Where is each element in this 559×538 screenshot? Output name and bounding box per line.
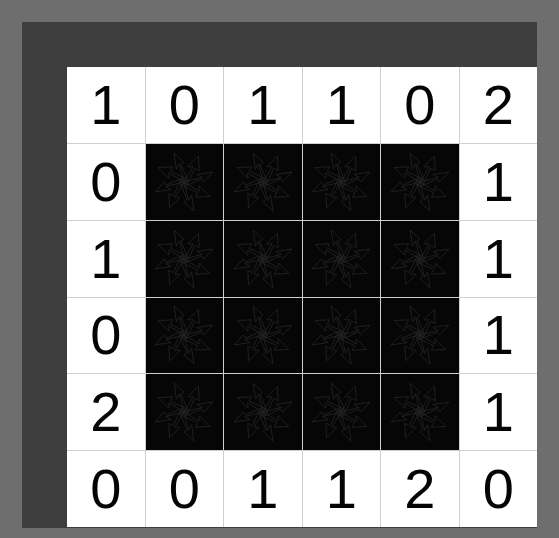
- cell-number: 0: [483, 461, 514, 517]
- chaos-star-icon: [303, 374, 379, 450]
- cell-number: 0: [90, 154, 121, 210]
- grid-cell-r5-c4[interactable]: [303, 374, 381, 450]
- grid-cell-r6-c4[interactable]: 1: [303, 451, 381, 527]
- chaos-star-icon: [225, 144, 301, 220]
- chaos-star-icon: [382, 221, 458, 297]
- grid-cell-r2-c4[interactable]: [303, 144, 381, 220]
- chaos-star-icon: [382, 144, 458, 220]
- grid-cell-r1-c1[interactable]: 1: [67, 67, 145, 143]
- grid-cell-r5-c5[interactable]: [381, 374, 459, 450]
- cell-number: 0: [90, 461, 121, 517]
- grid-cell-r1-c4[interactable]: 1: [303, 67, 381, 143]
- grid-cell-r2-c2[interactable]: [146, 144, 224, 220]
- grid-cell-r2-c3[interactable]: [224, 144, 302, 220]
- chaos-star-icon: [225, 221, 301, 297]
- grid-cell-r4-c3[interactable]: [224, 298, 302, 374]
- cell-number: 0: [169, 77, 200, 133]
- cell-number: 1: [326, 77, 357, 133]
- chaos-star-icon: [146, 221, 222, 297]
- cell-number: 0: [169, 461, 200, 517]
- cell-number: 1: [483, 384, 514, 440]
- grid-cell-r3-c1[interactable]: 1: [67, 221, 145, 297]
- cell-number: 1: [483, 231, 514, 287]
- cell-number: 0: [90, 307, 121, 363]
- grid-cell-r4-c1[interactable]: 0: [67, 298, 145, 374]
- cell-number: 1: [483, 154, 514, 210]
- grid-cell-r5-c6[interactable]: 1: [460, 374, 538, 450]
- grid-cell-r2-c6[interactable]: 1: [460, 144, 538, 220]
- cell-number: 0: [404, 77, 435, 133]
- grid-cell-r3-c6[interactable]: 1: [460, 221, 538, 297]
- grid-cell-r2-c1[interactable]: 0: [67, 144, 145, 220]
- grid-cell-r1-c6[interactable]: 2: [460, 67, 538, 143]
- chaos-star-icon: [146, 374, 222, 450]
- grid-cell-r6-c3[interactable]: 1: [224, 451, 302, 527]
- chaos-star-icon: [382, 298, 458, 374]
- cell-number: 1: [483, 307, 514, 363]
- grid-cell-r3-c2[interactable]: [146, 221, 224, 297]
- cell-number: 1: [247, 461, 278, 517]
- grid-cell-r6-c6[interactable]: 0: [460, 451, 538, 527]
- chaos-star-icon: [303, 221, 379, 297]
- chaos-star-icon: [303, 144, 379, 220]
- chaos-star-icon: [225, 374, 301, 450]
- grid-cell-r6-c1[interactable]: 0: [67, 451, 145, 527]
- grid-cell-r3-c4[interactable]: [303, 221, 381, 297]
- grid-cell-r4-c2[interactable]: [146, 298, 224, 374]
- grid-cell-r5-c3[interactable]: [224, 374, 302, 450]
- grid-cell-r1-c5[interactable]: 0: [381, 67, 459, 143]
- cell-number: 2: [90, 384, 121, 440]
- grid-cell-r6-c5[interactable]: 2: [381, 451, 459, 527]
- grid-cell-r3-c3[interactable]: [224, 221, 302, 297]
- cell-number: 1: [90, 231, 121, 287]
- cell-number: 2: [404, 461, 435, 517]
- grid-cell-r4-c5[interactable]: [381, 298, 459, 374]
- grid-cell-r4-c6[interactable]: 1: [460, 298, 538, 374]
- cell-number: 1: [247, 77, 278, 133]
- chaos-star-icon: [146, 144, 222, 220]
- chaos-star-icon: [382, 374, 458, 450]
- cell-number: 2: [483, 77, 514, 133]
- grid-cell-r1-c3[interactable]: 1: [224, 67, 302, 143]
- grid-cell-r4-c4[interactable]: [303, 298, 381, 374]
- chaos-star-icon: [225, 298, 301, 374]
- grid-cell-r3-c5[interactable]: [381, 221, 459, 297]
- grid-cell-r5-c1[interactable]: 2: [67, 374, 145, 450]
- chaos-star-icon: [303, 298, 379, 374]
- chaos-star-icon: [146, 298, 222, 374]
- grid-cell-r6-c2[interactable]: 0: [146, 451, 224, 527]
- puzzle-app: 1011020: [0, 0, 559, 538]
- cell-number: 1: [326, 461, 357, 517]
- puzzle-grid[interactable]: 1011020: [67, 67, 537, 527]
- cell-number: 1: [90, 77, 121, 133]
- grid-cell-r1-c2[interactable]: 0: [146, 67, 224, 143]
- grid-cell-r2-c5[interactable]: [381, 144, 459, 220]
- grid-cell-r5-c2[interactable]: [146, 374, 224, 450]
- board-frame: 1011020: [22, 22, 537, 528]
